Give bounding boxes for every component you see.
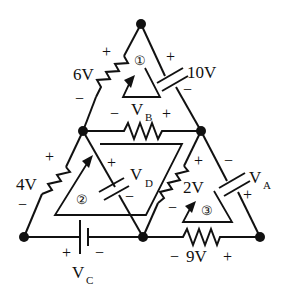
r2-label: 2V (183, 178, 205, 197)
arrow-head-icon (124, 75, 135, 88)
r4-label: 4V (16, 175, 38, 194)
bc-minus-sign: − (95, 244, 104, 261)
node-bot-right (255, 232, 265, 242)
rb-minus-sign: − (110, 105, 119, 122)
capacitor-vd (83, 131, 143, 237)
r9-label: 9V (186, 247, 208, 266)
node-top (136, 19, 146, 29)
loop-1-label: ① (134, 53, 146, 68)
ca-subscript: A (263, 179, 271, 191)
r4-plus-sign: + (45, 148, 54, 165)
c10-plus-sign: + (166, 48, 175, 65)
bc-label: V (72, 263, 85, 282)
c10-label: 10V (187, 63, 217, 82)
ca-plus-sign: + (243, 186, 252, 203)
r6-minus-sign: − (75, 90, 84, 107)
r2-plus-sign: + (194, 152, 203, 169)
resistor-9v (143, 229, 260, 245)
ca-label: V (249, 168, 262, 187)
r6-label: 6V (73, 65, 95, 84)
loop-2-arrow (55, 144, 182, 215)
r6-plus-sign: + (102, 43, 111, 60)
ca-minus-sign: − (224, 152, 233, 169)
r9-plus-sign: + (223, 248, 232, 265)
arrow-head-icon (185, 201, 196, 213)
loop-2-label: ② (76, 192, 88, 207)
rb-label: V (131, 100, 144, 119)
node-mid-right (196, 126, 206, 136)
r9-minus-sign: − (170, 248, 179, 265)
r2-minus-sign: − (168, 199, 177, 216)
rb-plus-sign: + (162, 105, 171, 122)
cd-label: V (130, 165, 143, 184)
cd-minus-sign: − (125, 188, 134, 205)
battery-vc (24, 220, 143, 254)
r4-minus-sign: − (18, 196, 27, 213)
node-bot-mid (138, 232, 148, 242)
resistor-vb (83, 123, 201, 139)
c10-minus-sign: − (183, 81, 192, 98)
loop-1-arrow (123, 68, 160, 97)
rb-subscript: B (145, 111, 152, 123)
cd-plus-sign: + (107, 154, 116, 171)
cd-subscript: D (145, 177, 153, 189)
loop-3-label: ③ (201, 203, 213, 218)
node-mid-left (78, 126, 88, 136)
arrow-head-icon (82, 155, 93, 168)
node-bot-left (19, 232, 29, 242)
bc-plus-sign: + (62, 244, 71, 261)
bc-subscript: C (86, 274, 93, 286)
circuit-diagram: + 6V − ① + 10V − − V B + + 4V − ② + V D … (0, 0, 281, 300)
